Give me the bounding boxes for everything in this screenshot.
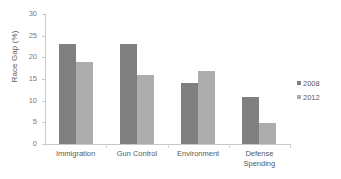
bar-group	[242, 14, 276, 144]
y-axis-tick-label: 5	[33, 117, 37, 126]
y-axis-tick-label: 30	[29, 9, 37, 18]
y-axis-tick-label: 15	[29, 74, 37, 83]
y-axis-tick-label: 25	[29, 31, 37, 40]
bar-chart: Race Gap (%) 051015202530 ImmigrationGun…	[0, 0, 341, 179]
bar-2012-immigration	[76, 62, 93, 144]
legend-swatch-icon	[297, 81, 301, 85]
x-axis-separator	[290, 144, 291, 148]
bar-group	[59, 14, 93, 144]
bar-group	[181, 14, 215, 144]
x-axis-separator	[168, 144, 169, 148]
y-axis-tick-label: 0	[33, 139, 37, 148]
legend-item-2012[interactable]: 2012	[297, 90, 320, 104]
bar-2008-environment	[181, 83, 198, 144]
y-axis-title: Race Gap (%)	[10, 17, 19, 97]
chart-legend: 20082012	[297, 76, 320, 104]
legend-label: 2012	[303, 93, 320, 102]
bar-group	[120, 14, 154, 144]
x-axis-label-defense-spending: Defense Spending	[229, 149, 290, 168]
legend-item-2008[interactable]: 2008	[297, 76, 320, 90]
bar-2008-gun-control	[120, 44, 137, 144]
bar-2008-defense-spending	[242, 97, 259, 144]
x-axis-separator	[106, 144, 107, 148]
x-axis-label-immigration: Immigration	[45, 149, 106, 159]
y-axis-tick-label: 10	[29, 96, 37, 105]
bar-2008-immigration	[59, 44, 76, 144]
x-axis-label-gun-control: Gun Control	[106, 149, 167, 159]
bar-2012-environment	[198, 71, 215, 144]
bar-2012-defense-spending	[259, 123, 276, 144]
x-axis-label-environment: Environment	[168, 149, 229, 159]
y-axis-tick-mark	[42, 144, 45, 145]
bar-2012-gun-control	[137, 75, 154, 144]
legend-swatch-icon	[297, 95, 301, 99]
plot-area	[45, 14, 290, 144]
x-axis-separator	[229, 144, 230, 148]
y-axis-tick-label: 20	[29, 52, 37, 61]
legend-label: 2008	[303, 79, 320, 88]
